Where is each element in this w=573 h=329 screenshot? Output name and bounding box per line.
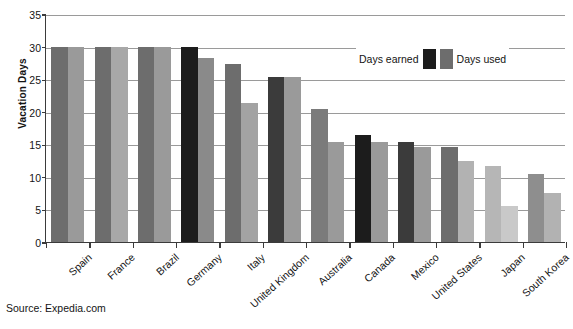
x-axis-label-spain: Spain bbox=[66, 251, 94, 278]
y-tick-label: 15 bbox=[29, 139, 41, 151]
legend-label-days-used: Days used bbox=[457, 53, 507, 65]
legend-swatch-days-earned bbox=[423, 49, 436, 69]
x-axis-label-italy: Italy bbox=[245, 251, 267, 273]
x-tick-mark bbox=[393, 242, 394, 248]
legend-label-days-earned: Days earned bbox=[359, 53, 419, 65]
y-tick-label: 0 bbox=[35, 237, 41, 249]
legend-swatch-days-used bbox=[440, 49, 453, 69]
x-axis-label-mexico: Mexico bbox=[408, 251, 441, 282]
source-note: Source: Expedia.com bbox=[6, 302, 106, 314]
x-axis-label-france: France bbox=[105, 251, 137, 282]
x-tick-mark bbox=[46, 242, 47, 248]
x-axis-label-canada: Canada bbox=[362, 251, 397, 285]
x-tick-mark bbox=[219, 242, 220, 248]
x-tick-mark bbox=[436, 242, 437, 248]
y-tick-label: 20 bbox=[29, 107, 41, 119]
y-tick-label: 10 bbox=[29, 172, 41, 184]
x-tick-mark bbox=[306, 242, 307, 248]
chart-legend: Days earned Days used bbox=[356, 48, 509, 70]
y-axis-title: Vacation Days bbox=[17, 24, 28, 164]
y-tick-label: 5 bbox=[35, 204, 41, 216]
x-tick-mark bbox=[133, 242, 134, 248]
x-axis-label-brazil: Brazil bbox=[153, 251, 181, 277]
x-axis-label-japan: Japan bbox=[498, 251, 527, 279]
y-tick-label: 35 bbox=[29, 9, 41, 21]
y-tick-label: 25 bbox=[29, 74, 41, 86]
vacation-days-bar-chart: Vacation Days 05101520253035 SpainFrance… bbox=[0, 0, 573, 329]
x-axis-label-germany: Germany bbox=[184, 251, 224, 289]
x-tick-mark bbox=[523, 242, 524, 248]
x-tick-mark bbox=[263, 242, 264, 248]
x-tick-mark bbox=[89, 242, 90, 248]
x-tick-mark bbox=[479, 242, 480, 248]
x-axis-label-australia: Australia bbox=[315, 251, 353, 287]
y-tick-label: 30 bbox=[29, 42, 41, 54]
x-tick-mark bbox=[566, 242, 567, 248]
x-tick-mark bbox=[176, 242, 177, 248]
x-tick-mark bbox=[349, 242, 350, 248]
